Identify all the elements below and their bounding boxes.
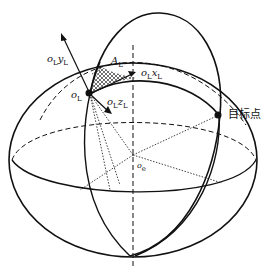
equator-front — [12, 160, 256, 192]
origin-label: oL — [71, 90, 82, 103]
great-circle-1 — [90, 13, 221, 256]
target-label: 目标点 — [228, 109, 261, 120]
center-label: oe — [137, 162, 146, 173]
sphere-diagram: oLyL oLxL oLzL oL AL oe 目标点 — [0, 0, 267, 269]
target-point — [215, 112, 222, 119]
origin-point — [86, 90, 93, 97]
y-axis-label: oLyL — [47, 54, 68, 67]
angle-label: AL — [111, 56, 123, 69]
z-axis-label: oLzL — [107, 97, 128, 110]
diagram-graphics — [0, 0, 267, 269]
z-axis-arrow — [90, 94, 108, 111]
x-axis-label: oLxL — [141, 68, 162, 81]
